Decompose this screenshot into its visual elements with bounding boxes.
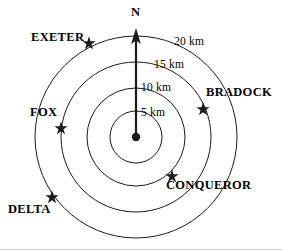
contact-label-bradock: BRADOCK	[206, 86, 272, 99]
range-label-20km: 20 km	[174, 36, 204, 48]
contact-label-exeter: EXETER	[31, 31, 84, 44]
contact-label-delta: DELTA	[8, 203, 51, 216]
range-label-5km: 5 km	[141, 107, 165, 119]
contact-label-conqueror: CONQUEROR	[166, 179, 251, 192]
range-label-15km: 15 km	[154, 59, 184, 71]
range-label-10km: 10 km	[141, 82, 171, 94]
contact-label-fox: FOX	[30, 106, 57, 119]
own-ship-center-dot	[132, 133, 140, 141]
radar-plot-figure: N 20 km 15 km 10 km 5 km EXETER BRADOCK …	[0, 0, 282, 250]
north-label: N	[131, 6, 140, 19]
north-arrow-icon	[131, 28, 141, 137]
